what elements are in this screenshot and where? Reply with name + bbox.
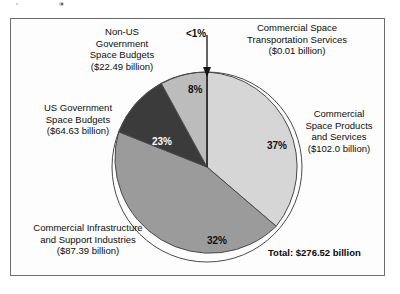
callout-commercial-space-products-and-services: Commercial Space Products and Services (… [286,108,392,154]
callout-us-government-space-budgets: US Government Space Budgets ($64.63 bill… [14,102,142,137]
callout-commercial-infrastructure-and-support-industries: Commercial Infrastructure and Support In… [12,222,164,257]
percent-label-commercial-space-transportation: <1% [186,28,206,39]
percent-label-us-government: 23% [152,136,172,147]
percent-label-commercial-infrastructure: 32% [207,235,227,246]
percent-label-commercial-space-products: 37% [267,140,287,151]
lt-one-percent-leader [196,34,220,78]
callout-commercial-space-transportation-services: Commercial Space Transportation Services… [222,22,372,57]
pie-chart: Non-US Government Space Budgets ($22.49 … [0,0,400,294]
callout-non-us-government-space-budgets: Non-US Government Space Budgets ($22.49 … [60,26,184,72]
percent-label-non-us-government: 8% [188,84,202,95]
total-label: Total: $276.52 billion [268,247,361,258]
